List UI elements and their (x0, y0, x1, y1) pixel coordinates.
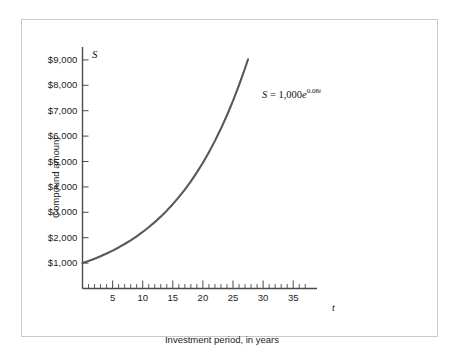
y-tick-label: $1,000 (22, 257, 78, 268)
equation-exponent-var: t (319, 87, 321, 95)
x-tick-label: 35 (278, 292, 308, 303)
equation-exponent-rate: 0.08 (307, 87, 319, 95)
x-tick-label: 25 (218, 292, 248, 303)
equation-exponent: 0.08t (307, 87, 321, 95)
y-tick-label: $4,000 (22, 181, 78, 192)
x-tick-label: 5 (98, 292, 128, 303)
equation-annotation: S = 1,000e0.08t (262, 87, 321, 100)
equation-coefficient: 1,000 (278, 89, 302, 100)
y-tick-label: $7,000 (22, 105, 78, 116)
y-tick-label: $2,000 (22, 232, 78, 243)
y-axis-symbol: S (92, 48, 98, 60)
equation-lhs: S (262, 89, 267, 100)
y-axis-ticks (83, 60, 89, 263)
x-axis-major-ticks (113, 281, 294, 289)
x-axis-symbol: t (332, 302, 335, 313)
x-tick-label: 10 (128, 292, 158, 303)
y-tick-label: $6,000 (22, 130, 78, 141)
equation-equals: = (270, 89, 276, 100)
x-axis-label: Investment period, in years (122, 334, 322, 345)
chart-plot-area (22, 20, 439, 338)
y-tick-label: $8,000 (22, 79, 78, 90)
x-tick-label: 15 (158, 292, 188, 303)
figure-page: Compound amount Investment period, in ye… (0, 0, 460, 357)
y-tick-label: $5,000 (22, 156, 78, 167)
y-tick-label: $9,000 (22, 54, 78, 65)
x-tick-label: 20 (188, 292, 218, 303)
y-tick-label: $3,000 (22, 206, 78, 217)
figure-frame: Compound amount Investment period, in ye… (21, 19, 438, 337)
x-tick-label: 30 (248, 292, 278, 303)
exponential-curve (83, 59, 249, 263)
